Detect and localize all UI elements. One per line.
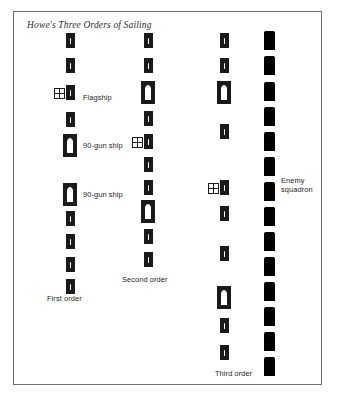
- enemy-squadron-label: Enemy squadron: [281, 176, 327, 195]
- ship-marker-enemy-squadron-13: [264, 357, 275, 376]
- ship-marker-third-order-4: [220, 180, 229, 195]
- ship-marker-second-order-6: [144, 180, 153, 195]
- ship-marker-first-order-4: [63, 134, 77, 157]
- second-order-label: Second order: [122, 275, 168, 284]
- flagship-marker-first-order: [54, 88, 65, 99]
- ship-marker-second-order-1: [144, 58, 153, 73]
- ship-marker-first-order-6: [66, 211, 75, 226]
- ship-marker-second-order-4: [144, 134, 153, 149]
- gun-ship-upper-label: 90-gun ship: [83, 141, 123, 150]
- third-order-label: Third order: [215, 369, 252, 378]
- ship-marker-enemy-squadron-11: [264, 307, 275, 326]
- ship-marker-enemy-squadron-10: [264, 282, 275, 301]
- ship-marker-enemy-squadron-2: [264, 82, 275, 101]
- flagship-marker-third-order: [208, 183, 219, 194]
- ship-marker-third-order-1: [220, 58, 229, 73]
- ship-marker-first-order-5: [63, 183, 77, 206]
- ship-marker-enemy-squadron-12: [264, 332, 275, 351]
- ship-marker-second-order-0: [144, 33, 153, 48]
- ship-marker-first-order-0: [66, 33, 75, 48]
- ship-marker-third-order-5: [220, 206, 229, 221]
- ship-marker-third-order-6: [220, 246, 229, 261]
- ship-marker-enemy-squadron-7: [264, 207, 275, 226]
- ship-marker-third-order-7: [217, 286, 231, 309]
- ship-marker-first-order-9: [66, 279, 75, 294]
- ship-marker-first-order-2: [66, 85, 75, 100]
- gun-ship-lower-label: 90-gun ship: [83, 190, 123, 199]
- ship-marker-third-order-2: [217, 81, 231, 104]
- ship-marker-enemy-squadron-4: [264, 132, 275, 151]
- ship-marker-second-order-9: [144, 252, 153, 267]
- ship-marker-enemy-squadron-8: [264, 232, 275, 251]
- ship-marker-second-order-3: [144, 111, 153, 126]
- ship-marker-second-order-5: [144, 157, 153, 172]
- ship-marker-enemy-squadron-3: [264, 107, 275, 126]
- ship-marker-second-order-2: [141, 81, 155, 104]
- figure-frame: [13, 11, 322, 385]
- first-order-label: First order: [47, 294, 82, 303]
- ship-marker-first-order-8: [66, 257, 75, 272]
- ship-marker-first-order-7: [66, 234, 75, 249]
- ship-marker-first-order-1: [66, 58, 75, 73]
- ship-marker-enemy-squadron-9: [264, 257, 275, 276]
- ship-marker-enemy-squadron-0: [264, 31, 275, 50]
- flagship-label: Flagship: [83, 93, 112, 102]
- flagship-marker-second-order: [132, 137, 143, 148]
- figure-title: Howe's Three Orders of Sailing: [27, 20, 152, 31]
- ship-marker-third-order-8: [220, 318, 229, 333]
- ship-marker-first-order-3: [66, 112, 75, 127]
- ship-marker-enemy-squadron-6: [264, 182, 275, 201]
- ship-marker-third-order-0: [220, 33, 229, 48]
- ship-marker-enemy-squadron-5: [264, 157, 275, 176]
- ship-marker-enemy-squadron-1: [264, 56, 275, 75]
- ship-marker-second-order-8: [144, 229, 153, 244]
- ship-marker-second-order-7: [141, 200, 155, 223]
- ship-marker-third-order-3: [220, 124, 229, 139]
- figure-howes-three-orders-of-sailing: Howe's Three Orders of Sailing Flagship9…: [0, 0, 338, 396]
- ship-marker-third-order-9: [220, 345, 229, 360]
